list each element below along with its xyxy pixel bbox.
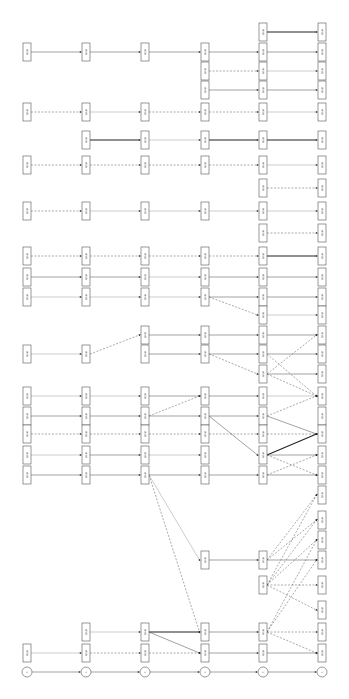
arrowhead-icon — [80, 433, 82, 435]
arrowhead-icon — [80, 296, 82, 298]
graph-node: label — [318, 365, 326, 383]
arrowhead-icon — [316, 652, 318, 654]
node-label: label — [321, 312, 324, 319]
edge — [31, 276, 82, 278]
node-label: label — [321, 413, 324, 420]
node-label: label — [321, 332, 324, 339]
node-label: label — [85, 472, 88, 479]
graph-node: label — [259, 268, 267, 286]
arrowhead-icon — [257, 70, 259, 72]
graph-node: label — [318, 103, 326, 121]
arrowhead-icon — [80, 111, 82, 113]
graph-node: label — [141, 387, 149, 405]
graph-node: label — [201, 326, 209, 344]
graph-node: label — [318, 179, 326, 197]
node-label: label — [144, 472, 147, 479]
edge — [267, 433, 318, 455]
node-label: label — [204, 413, 207, 420]
edge — [267, 631, 318, 633]
graph-node: label — [259, 156, 267, 174]
arrowhead-icon — [199, 454, 201, 456]
node-label: label — [262, 452, 265, 459]
arrowhead-icon — [316, 139, 318, 141]
graph-node: label — [201, 551, 209, 569]
edge — [31, 454, 82, 456]
graph-node: label — [259, 202, 267, 220]
graph-node: label — [82, 156, 90, 174]
edge — [267, 632, 318, 654]
node-label: label — [204, 109, 207, 116]
graph-node: label — [259, 288, 267, 306]
arrowhead-icon — [139, 433, 141, 435]
edge — [149, 631, 201, 633]
node-label: label — [26, 431, 29, 438]
arrowhead-icon — [138, 334, 140, 336]
graph-node-ellipse: t — [22, 667, 32, 677]
edge — [267, 111, 318, 113]
node-label: label — [204, 650, 207, 657]
node-label: label — [321, 472, 324, 479]
node-label: label — [321, 607, 324, 614]
arrowhead-icon — [199, 474, 201, 476]
node-label: label — [85, 393, 88, 400]
edge — [267, 354, 318, 397]
node-label: label — [85, 452, 88, 459]
node-label: label — [262, 629, 265, 636]
arrowhead-icon — [139, 415, 141, 417]
node-label: label — [85, 208, 88, 215]
node-label: label — [321, 582, 324, 589]
arrowhead-icon — [198, 671, 200, 673]
node-label: label — [321, 253, 324, 260]
edge — [267, 652, 318, 654]
edge — [267, 374, 318, 397]
edge — [267, 416, 318, 435]
node-label: label — [144, 162, 147, 169]
arrowhead-icon — [315, 671, 317, 673]
edge — [31, 652, 82, 654]
edge — [149, 395, 201, 416]
graph-node-ellipse: t — [258, 667, 268, 677]
graph-node: label — [23, 156, 31, 174]
arrowhead-icon — [316, 164, 318, 166]
edge — [90, 255, 141, 257]
node-label: t — [144, 671, 147, 672]
graph-node: label — [318, 425, 326, 443]
node-label: label — [262, 431, 265, 438]
graph-node: label — [259, 623, 267, 641]
arrowhead-icon — [80, 454, 82, 456]
edge — [149, 474, 201, 476]
graph-node: label — [141, 103, 149, 121]
arrowhead-icon — [80, 255, 82, 257]
graph-node: label — [318, 387, 326, 405]
graph-node-ellipse: t — [81, 667, 91, 677]
node-label: label — [85, 274, 88, 281]
edge — [91, 671, 140, 673]
node-label: label — [26, 253, 29, 260]
arrowhead-icon — [139, 652, 141, 654]
graph-node: label — [259, 103, 267, 121]
arrowhead-icon — [139, 111, 141, 113]
graph-node: label — [318, 326, 326, 344]
graph-node: label — [141, 446, 149, 464]
arrowhead-icon — [199, 210, 201, 212]
edge — [209, 255, 259, 257]
graph-node: label — [82, 202, 90, 220]
graph-node: label — [141, 425, 149, 443]
graph-node: label — [82, 247, 90, 265]
graph-node: label — [82, 131, 90, 149]
graph-node: label — [201, 407, 209, 425]
graph-node: label — [141, 407, 149, 425]
node-label: label — [26, 109, 29, 116]
node-label: label — [321, 629, 324, 636]
arrowhead-icon — [316, 314, 318, 316]
edge — [149, 210, 201, 212]
node-label: label — [204, 208, 207, 215]
node-label: label — [85, 351, 88, 358]
edge — [209, 395, 259, 397]
node-label: label — [144, 274, 147, 281]
edge — [31, 255, 82, 257]
node-label: label — [144, 393, 147, 400]
edge — [149, 652, 201, 654]
edge — [267, 454, 318, 475]
edge — [90, 631, 141, 633]
